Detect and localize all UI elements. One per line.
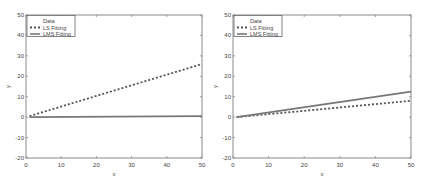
y-tick-label: 20 [17,73,24,79]
y-axis-label: y [212,85,218,88]
y-tick-label: 50 [17,12,24,18]
legend: DataLS FittingLMS Fitting [234,16,282,38]
x-tick-label: 40 [372,162,379,168]
y-tick-label: 40 [224,32,231,38]
y-tick-label: 0 [228,114,232,120]
legend-entry-label: LS Fitting [250,25,273,31]
legend-entry-label: Data [43,18,56,24]
x-tick-label: 0 [231,162,235,168]
x-tick-label: 40 [163,162,170,168]
chart-canvas: 01020304050-20-1001020304050xyDataLS Fit… [0,0,425,181]
y-axis-label: y [5,85,11,88]
y-tick-label: -20 [15,155,24,161]
x-tick-label: 20 [301,162,308,168]
y-tick-label: 10 [17,94,24,100]
legend-entry-label: LMS Fitting [250,31,278,37]
x-tick-label: 0 [24,162,28,168]
lms-fitting-line [30,116,202,117]
plot-2: 01020304050-20-1001020304050xyDataLS Fit… [212,12,415,177]
y-tick-label: 40 [17,32,24,38]
figure: 01020304050-20-1001020304050xyDataLS Fit… [0,0,425,181]
y-tick-label: 30 [17,53,24,59]
x-tick-label: 30 [128,162,135,168]
y-tick-label: -20 [222,155,231,161]
y-tick-label: -10 [222,135,231,141]
y-tick-label: 10 [224,94,231,100]
y-tick-label: 0 [21,114,25,120]
y-tick-label: 20 [224,73,231,79]
x-tick-label: 10 [58,162,65,168]
legend-entry-label: LS Fitting [43,25,66,31]
y-tick-label: 30 [224,53,231,59]
x-tick-label: 50 [408,162,415,168]
plot-1: 01020304050-20-1001020304050xyDataLS Fit… [5,12,206,177]
x-tick-label: 30 [336,162,343,168]
x-axis-label: x [113,171,116,177]
x-axis-label: x [321,171,324,177]
y-tick-label: -10 [15,135,24,141]
legend: DataLS FittingLMS Fitting [27,16,75,38]
legend-entry-label: Data [250,18,263,24]
legend-entry-label: LMS Fitting [43,31,71,37]
x-tick-label: 10 [265,162,272,168]
x-tick-label: 50 [199,162,206,168]
y-tick-label: 50 [224,12,231,18]
x-tick-label: 20 [93,162,100,168]
